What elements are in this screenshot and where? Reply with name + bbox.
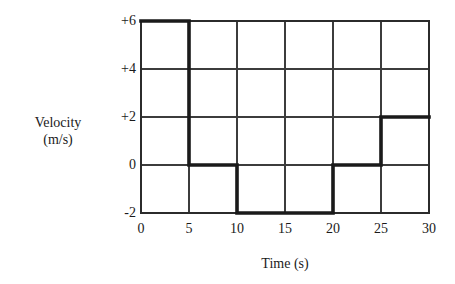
x-tick-label-25: 25 (361, 222, 401, 236)
x-tick-label-10: 10 (217, 222, 257, 236)
y-tick-label-6: +6 (96, 14, 136, 28)
x-tick-label-0: 0 (121, 222, 161, 236)
y-axis-tick-labels: +6 +4 +2 0 -2 (92, 21, 136, 213)
x-tick-label-5: 5 (169, 222, 209, 236)
x-tick-label-20: 20 (313, 222, 353, 236)
x-tick-label-30: 30 (409, 222, 449, 236)
plot-area (141, 21, 429, 213)
y-tick-label-minus-2: -2 (96, 206, 136, 220)
y-tick-label-4: +4 (96, 62, 136, 76)
y-axis-title-line-1: Velocity (35, 115, 82, 130)
plot-svg (137, 17, 433, 217)
velocity-time-graph-figure: Velocity (m/s) +6 +4 +2 0 -2 (0, 0, 455, 284)
x-tick-label-15: 15 (265, 222, 305, 236)
y-tick-label-2: +2 (96, 110, 136, 124)
y-tick-label-0: 0 (96, 158, 136, 172)
x-axis-title: Time (s) (141, 256, 429, 272)
x-axis-tick-labels: 0 5 10 15 20 25 30 (141, 222, 429, 242)
